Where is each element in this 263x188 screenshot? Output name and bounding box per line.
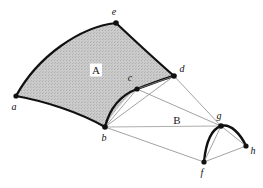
region-label-a: A [90,64,102,77]
arc-f-g-h [204,126,246,162]
vertex-dot-d [171,73,177,79]
vertex-dot-g [218,123,224,129]
vertex-label-f: f [201,168,204,178]
ruling-b-g [105,126,221,127]
ruling-b-f [105,127,204,162]
vertex-label-c: c [128,73,132,83]
region-label-b: B [173,115,180,126]
vertex-dot-h [243,143,248,148]
vertex-dot-c [134,86,139,91]
vertex-label-e: e [112,7,116,17]
vertex-label-d: d [180,64,185,74]
vertex-label-a: a [12,102,17,112]
vertex-label-b: b [102,133,107,143]
vertex-dot-f [201,159,206,164]
vertex-dot-a [13,93,18,98]
figure-canvas: a b c d e f g h A B [0,0,263,188]
vertex-dot-b [102,124,108,130]
figure-drawing [0,0,263,188]
ruling-d-g [174,76,221,126]
vertex-label-h: h [251,146,256,156]
vertex-label-g: g [217,111,222,121]
vertex-dot-e [113,20,119,26]
